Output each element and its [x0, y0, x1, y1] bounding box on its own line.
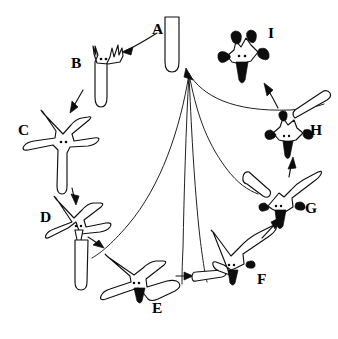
star-g-dark-beak: [275, 210, 286, 229]
arrow-e-to-f-group: [176, 272, 193, 280]
arrow-b-to-c-head: [70, 101, 78, 113]
budding-rod-b: [93, 45, 123, 107]
nucleoid-dot-c1: [60, 141, 63, 144]
arrow-c-to-d-head: [71, 194, 79, 205]
released-rod-d: [75, 240, 88, 290]
nucleoid-dot-h2: [288, 135, 290, 137]
stage-label-i: I: [268, 24, 274, 41]
nucleoid-dot-c2: [65, 141, 68, 144]
stage-e-cell: [101, 254, 180, 303]
stage-label-b: B: [71, 54, 81, 71]
star-i-dark-beak: [236, 62, 248, 83]
nucleoid-dot-i2: [244, 55, 247, 58]
rod-cell-a: [165, 17, 179, 72]
star-i-dark-tip-right: [258, 48, 270, 60]
star-f-dark-beak: [228, 270, 238, 285]
nucleoid-dot-g1: [275, 205, 278, 208]
nucleoid-dot-g2: [280, 205, 283, 208]
star-g-dark-tip-right: [295, 202, 305, 210]
stage-label-h: H: [310, 121, 322, 138]
star-cell-h: [273, 118, 303, 142]
star-h-dark-beak: [283, 141, 293, 159]
star-f-dark-tip: [246, 261, 255, 268]
stage-i-cell: [218, 30, 269, 83]
nucleoid-dot-i1: [238, 55, 241, 58]
stage-label-d: D: [40, 208, 51, 225]
star-cell-c: [23, 110, 99, 194]
arrow-g-to-h-head: [288, 157, 296, 169]
nucleoid-dot-e1: [133, 282, 136, 285]
stage-label-a: A: [152, 20, 164, 37]
return-curve-arrowhead: [184, 68, 193, 80]
star-g-dark-tip-left: [259, 203, 269, 211]
stage-label-g: G: [305, 199, 317, 216]
nucleoid-dot-e2: [138, 282, 141, 285]
stage-label-c: C: [18, 121, 29, 138]
stage-b-cell: [93, 45, 123, 107]
nucleoid-dot-d2: [80, 225, 83, 228]
nucleoid-dot-b2: [105, 58, 108, 61]
arrow-a-to-b-head: [122, 47, 133, 55]
stage-a-cell: [165, 17, 179, 72]
nucleoid-dot-f1: [228, 264, 231, 267]
stage-c-cell: [23, 110, 99, 194]
star-e-dark-beak: [134, 288, 145, 303]
star-i-dark-tip-left: [218, 52, 231, 63]
arrow-h-to-i-head: [264, 83, 273, 96]
return-curve-from-f: [189, 74, 207, 282]
nucleoid-dot-d1: [75, 225, 78, 228]
nucleoid-dot-b1: [100, 58, 103, 61]
star-h-dark-tip-top: [279, 111, 287, 121]
released-rod-h: [293, 91, 331, 118]
star-i-dark-tip-topleft: [231, 31, 241, 44]
figure-canvas: A B C D E F G H I: [0, 0, 338, 339]
life-cycle-diagram: A B C D E F G H I: [0, 0, 338, 339]
stage-label-e: E: [152, 299, 162, 316]
nucleoid-dot-f2: [233, 264, 236, 267]
stage-label-f: F: [257, 270, 266, 287]
nucleoid-dot-h1: [283, 135, 285, 137]
